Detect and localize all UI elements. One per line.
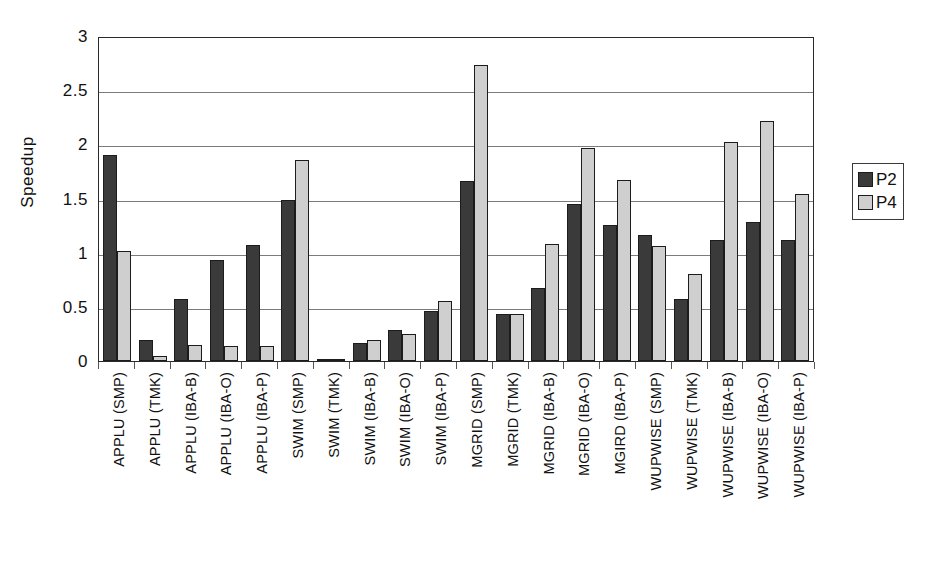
bar-group — [635, 38, 671, 361]
speedup-bar-chart: Speedup 32.521.510.50 APPLU (SMP)APPLU (… — [0, 0, 932, 575]
plot-area — [98, 37, 814, 362]
x-axis-tick — [277, 362, 278, 369]
x-axis-tick — [313, 362, 314, 369]
bar-group — [492, 38, 528, 361]
bar-group — [278, 38, 314, 361]
x-axis-tick — [528, 362, 529, 369]
bar-group — [563, 38, 599, 361]
bar-p4 — [474, 65, 488, 361]
x-axis-tick — [492, 362, 493, 369]
bar-group — [206, 38, 242, 361]
bar-p4 — [402, 334, 416, 361]
x-axis-tick-label: SWIM (TMK) — [325, 372, 343, 567]
y-axis-tick-label: 0 — [30, 352, 88, 372]
x-axis-tick — [707, 362, 708, 369]
legend-item: P4 — [858, 191, 897, 214]
bar-group — [242, 38, 278, 361]
x-axis-tick — [563, 362, 564, 369]
bar-p2 — [174, 299, 188, 361]
bar-p2 — [281, 200, 295, 361]
x-axis-tick-label: WUPWISE (IBA-O) — [754, 372, 772, 567]
bar-p4 — [652, 246, 666, 361]
bar-group — [706, 38, 742, 361]
bar-p2 — [424, 311, 438, 361]
x-axis-label-slot: WUPWISE (IBA-P) — [696, 372, 896, 390]
bar-p2 — [246, 245, 260, 361]
bar-p2 — [603, 225, 617, 362]
x-axis-tick-label: WUPWISE (IBA-B) — [719, 372, 737, 567]
bar-group — [349, 38, 385, 361]
bar-group — [385, 38, 421, 361]
x-axis-tick-label: SWIM (IBA-P) — [432, 372, 450, 567]
y-axis-tick-label: 2 — [30, 135, 88, 155]
bar-p2 — [781, 240, 795, 361]
x-axis-tick-label: MGRID (IBA-B) — [540, 372, 558, 567]
y-axis-tick-labels: 32.521.510.50 — [30, 27, 88, 372]
bar-p4 — [545, 244, 559, 361]
x-axis-tick — [814, 362, 815, 369]
legend-swatch-p4 — [858, 195, 873, 210]
x-axis-tick — [241, 362, 242, 369]
bar-p2 — [710, 240, 724, 361]
x-axis-tick-label: SWIM (IBA-B) — [361, 372, 379, 567]
bar-p4 — [688, 274, 702, 361]
bar-group — [135, 38, 171, 361]
bar-p4 — [367, 340, 381, 361]
x-axis-tick — [134, 362, 135, 369]
bar-group — [527, 38, 563, 361]
x-axis-tick — [349, 362, 350, 369]
bar-p4 — [760, 121, 774, 362]
bar-p2 — [531, 288, 545, 361]
bar-p2 — [353, 343, 367, 361]
bar-p4 — [510, 314, 524, 361]
x-axis-tick-labels: APPLU (SMP)APPLU (TMK)APPLU (IBA-B)APPLU… — [98, 372, 814, 572]
x-axis-tick — [205, 362, 206, 369]
bar-p2 — [496, 314, 510, 361]
x-axis-tick-label: WUPWISE (IBA-P) — [790, 372, 808, 567]
x-axis-tick-label: MGRID (SMP) — [468, 372, 486, 567]
x-axis-tick-label: MGIRD (IBA-P) — [611, 372, 629, 567]
y-axis-tick-label: 1 — [30, 244, 88, 264]
bar-p4 — [438, 301, 452, 361]
bar-p4 — [224, 346, 238, 361]
bar-p4 — [260, 346, 274, 361]
bar-p2 — [460, 181, 474, 361]
x-axis-tick-label: APPLU (IBA-B) — [182, 372, 200, 567]
x-axis-tick-label: APPLU (SMP) — [110, 372, 128, 567]
bars-layer — [99, 38, 813, 361]
x-axis-tick — [671, 362, 672, 369]
legend: P2P4 — [852, 163, 904, 220]
bar-p2 — [210, 260, 224, 361]
x-axis-tick-label: MGRID (IBA-O) — [575, 372, 593, 567]
x-axis-tick — [635, 362, 636, 369]
x-axis-tick-label: APPLU (TMK) — [146, 372, 164, 567]
bar-group — [777, 38, 813, 361]
x-axis-tick — [384, 362, 385, 369]
bar-p2 — [103, 155, 117, 361]
x-axis-tick-label: SWIM (IBA-O) — [396, 372, 414, 567]
x-axis-tick-label: WUPWISE (TMK) — [683, 372, 701, 567]
legend-label: P2 — [876, 171, 897, 188]
y-axis-tick-label: 0.5 — [30, 298, 88, 318]
bar-group — [599, 38, 635, 361]
x-axis-tick — [599, 362, 600, 369]
bar-group — [670, 38, 706, 361]
bar-p4 — [117, 251, 131, 362]
bar-p4 — [331, 359, 345, 361]
y-axis-tick-label: 2.5 — [30, 81, 88, 101]
x-axis-ticks — [98, 362, 814, 370]
bar-p4 — [188, 345, 202, 361]
bar-group — [420, 38, 456, 361]
x-axis-tick — [420, 362, 421, 369]
bar-p2 — [388, 330, 402, 361]
bar-p4 — [295, 160, 309, 362]
bar-p4 — [617, 180, 631, 361]
legend-swatch-p2 — [858, 172, 873, 187]
x-axis-tick-label: SWIM (SMP) — [289, 372, 307, 567]
legend-item: P2 — [858, 168, 897, 191]
bar-group — [99, 38, 135, 361]
x-axis-tick — [778, 362, 779, 369]
y-axis-tick-label: 1.5 — [30, 190, 88, 210]
bar-p4 — [153, 356, 167, 361]
bar-p2 — [746, 222, 760, 361]
